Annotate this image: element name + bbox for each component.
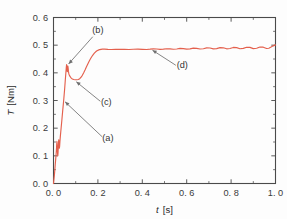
x-tick-label: 0. 2 <box>90 188 105 198</box>
annotation-c-label: (c) <box>101 97 112 107</box>
x-tick-label: 0. 8 <box>223 188 238 198</box>
y-axis-title: T[Nm] <box>5 85 16 115</box>
figure-container: 0. 00. 10. 20. 30. 40. 50. 6 0. 00. 20. … <box>0 0 287 219</box>
y-tick-label: 0. 4 <box>33 68 48 78</box>
x-tick-label: 0. 4 <box>135 188 150 198</box>
y-tick-label: 0. 5 <box>33 40 48 50</box>
annotation-b-label: (b) <box>92 25 103 35</box>
y-tick-label: 0. 2 <box>33 123 48 133</box>
y-tick-label: 0. 6 <box>33 13 48 23</box>
annotation-a-label: (a) <box>102 133 113 143</box>
x-tick-label: 1. 0 <box>268 188 283 198</box>
y-tick-label: 0. 3 <box>33 96 48 106</box>
torque-vs-time-chart: 0. 00. 10. 20. 30. 40. 50. 6 0. 00. 20. … <box>0 0 287 219</box>
y-tick-label: 0. 1 <box>33 151 48 161</box>
x-tick-label: 0. 0 <box>46 188 61 198</box>
x-axis-title: t[s] <box>156 204 173 215</box>
x-tick-label: 0. 6 <box>179 188 194 198</box>
annotation-d-label: (d) <box>177 60 188 70</box>
